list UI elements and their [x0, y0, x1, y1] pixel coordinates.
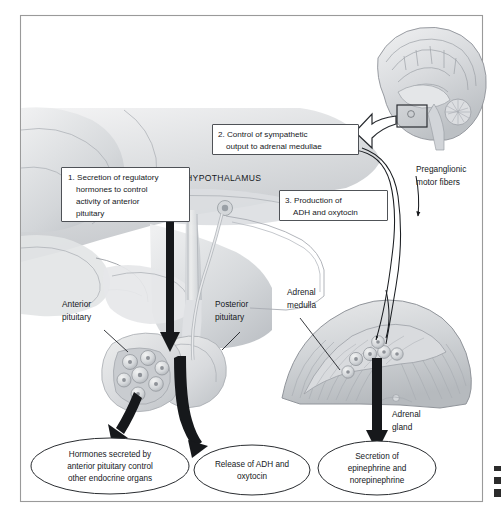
hypothalamus-region-label: HYPOTHALAMUS: [186, 173, 261, 183]
anterior-pituitary-cells: [113, 348, 170, 404]
callout-box-3-line-2: ADH and oxytocin: [293, 208, 358, 217]
brain-sagittal-inset: [355, 27, 486, 150]
label-preganglionic-fibers: Preganglionic motor fibers: [416, 164, 466, 187]
oval-adrenal-output[interactable]: Secretion of epinephrine and norepinephr…: [318, 441, 436, 495]
callout-box-1-line-2: hormones to control: [76, 185, 148, 194]
oval-3-line-2: epinephrine and: [348, 464, 407, 473]
label-anterior-pituitary-line-2: pituitary: [62, 312, 92, 322]
label-adrenal-medulla-line-1: Adrenal: [287, 287, 316, 297]
label-adrenal-gland: Adrenal gland: [392, 409, 421, 432]
oval-1-line-3: other endocrine organs: [68, 474, 152, 483]
oval-2-line-2: oxytocin: [237, 472, 267, 481]
label-preganglionic-fibers-line-1: Preganglionic: [416, 164, 466, 174]
oval-1-line-2: anterior pituitary control: [67, 462, 153, 471]
callout-box-3[interactable]: 3. Production of ADH and oxytocin: [280, 191, 388, 221]
label-adrenal-gland-line-1: Adrenal: [392, 409, 421, 419]
label-posterior-pituitary-line-2: pituitary: [215, 312, 245, 322]
oval-2-line-1: Release of ADH and: [215, 460, 290, 469]
figure-root: HYPOTHALAMUS 1. Secretion of regulatory …: [0, 0, 504, 523]
oval-1-line-1: Hormones secreted by: [69, 450, 152, 459]
callout-box-2-line-2: output to adrenal medullae: [226, 142, 322, 151]
callout-box-1-line-3: activity of anterior: [76, 197, 140, 206]
oval-anterior-pituitary-output[interactable]: Hormones secreted by anterior pituitary …: [31, 438, 189, 494]
oval-3-line-3: norepinephrine: [350, 476, 405, 485]
label-adrenal-gland-line-2: gland: [392, 422, 413, 432]
callout-box-1-line-1: 1. Secretion of regulatory: [68, 173, 159, 182]
oval-posterior-pituitary-output[interactable]: Release of ADH and oxytocin: [194, 445, 310, 495]
diagram-canvas: HYPOTHALAMUS 1. Secretion of regulatory …: [0, 0, 504, 523]
callout-box-2-line-1: 2. Control of sympathetic: [218, 130, 308, 139]
oval-3-line-1: Secretion of: [355, 452, 399, 461]
callout-box-3-line-1: 3. Production of: [285, 196, 342, 205]
callout-box-1-line-4: pituitary: [76, 209, 105, 218]
mammillary-body: [218, 201, 233, 216]
cerebellum: [445, 99, 471, 125]
label-preganglionic-fibers-line-2: motor fibers: [416, 177, 460, 187]
label-posterior-pituitary-line-1: Posterior: [215, 299, 248, 309]
label-anterior-pituitary-line-1: Anterior: [62, 299, 91, 309]
callout-box-1[interactable]: 1. Secretion of regulatory hormones to c…: [62, 168, 190, 222]
label-adrenal-medulla-line-2: medulla: [287, 300, 316, 310]
corner-marks: [494, 466, 501, 497]
label-adrenal-medulla: Adrenal medulla: [287, 287, 316, 310]
callout-box-2[interactable]: 2. Control of sympathetic output to adre…: [213, 125, 359, 155]
